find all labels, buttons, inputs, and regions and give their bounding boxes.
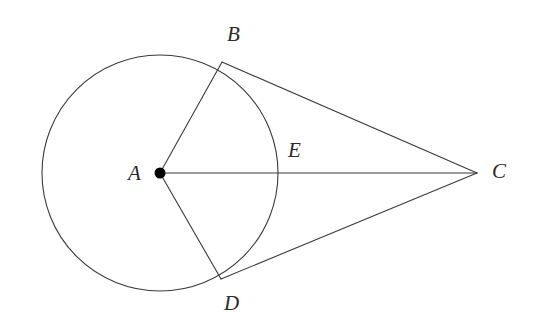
geometry-figure-canvas: A B C D E bbox=[0, 0, 544, 333]
segment-AD bbox=[160, 173, 221, 279]
point-label-D: D bbox=[224, 293, 239, 314]
geometry-svg bbox=[0, 0, 544, 333]
point-label-E: E bbox=[288, 140, 301, 161]
segment-DC bbox=[221, 173, 477, 279]
segment-BC bbox=[222, 62, 477, 173]
point-label-C: C bbox=[492, 161, 506, 182]
point-label-B: B bbox=[227, 24, 240, 45]
segment-AB bbox=[160, 62, 222, 173]
point-label-A: A bbox=[128, 163, 141, 184]
point-marker-A bbox=[155, 168, 166, 179]
